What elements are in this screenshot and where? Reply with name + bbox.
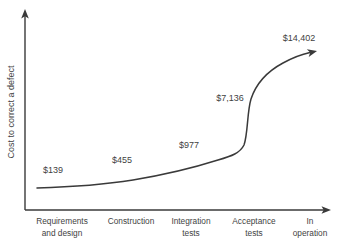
x-category-integration-line2: tests <box>182 228 200 238</box>
x-category-acceptance-line2: tests <box>245 228 263 238</box>
x-category-operation-line2: operation <box>293 228 328 238</box>
x-category-integration-line1: Integration <box>171 216 211 226</box>
cost-curve-line <box>37 53 310 189</box>
data-label-requirements: $139 <box>43 165 63 175</box>
x-category-requirements-line1: Requirements <box>36 216 88 226</box>
cost-to-correct-defect-chart: $139 $455 $977 $7,136 $14,402 Cost to co… <box>0 0 342 244</box>
x-category-operation-line1: In <box>307 216 314 226</box>
data-label-acceptance: $7,136 <box>216 93 244 103</box>
x-category-acceptance-line1: Acceptance <box>232 216 276 226</box>
data-label-operation: $14,402 <box>283 33 316 43</box>
x-category-requirements-line2: and design <box>42 228 83 238</box>
chart-figure: $139 $455 $977 $7,136 $14,402 Cost to co… <box>0 0 342 244</box>
y-axis-title: Cost to correct a defect <box>6 65 16 159</box>
data-label-integration: $977 <box>179 140 199 150</box>
x-category-construction-line1: Construction <box>108 216 155 226</box>
data-label-construction: $455 <box>112 155 132 165</box>
